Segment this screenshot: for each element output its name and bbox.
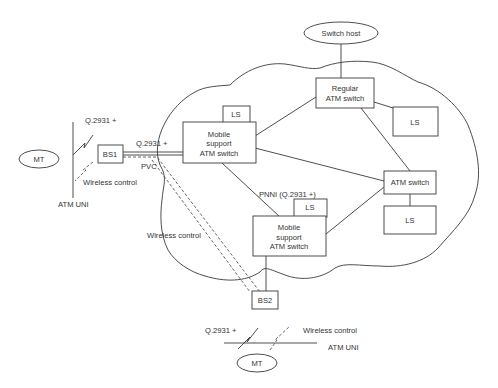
label-pnni: PNNI (Q.2931 +) [259, 190, 316, 199]
label-q2931-bottom: Q.2931 + [205, 326, 237, 335]
ls-atm-label: LS [405, 216, 414, 225]
lightning-icon-left [73, 135, 93, 155]
ls-regular-label: LS [410, 118, 419, 127]
mobile-atm-network-diagram: Switch host Regular ATM switch LS LS Mob… [0, 0, 498, 388]
pvc-dashed-line [123, 157, 260, 292]
label-wireless-control-bottom: Wireless control [303, 326, 357, 335]
label-atm-uni-bottom: ATM UNI [328, 343, 359, 352]
ls-mobile1-label: LS [231, 110, 240, 119]
bs2-label: BS2 [258, 296, 272, 305]
wireless-control-dashed-mid [152, 160, 250, 292]
wireless-control-dashed-bottom [270, 326, 290, 350]
lightning-icon-bottom [238, 328, 258, 349]
label-pvc: PVC [141, 162, 157, 171]
link-regular-ls [374, 102, 393, 108]
label-wireless-control-mid: Wireless control [147, 231, 201, 240]
link-atmswitch-mobile2 [326, 187, 384, 234]
regular-atm-switch-label-2: ATM switch [326, 94, 365, 103]
link-regular-mobile1 [255, 97, 316, 136]
atm-switch-label: ATM switch [391, 178, 430, 187]
ls-mobile2-label: LS [305, 203, 314, 212]
switch-host-label: Switch host [322, 29, 362, 38]
regular-atm-switch-label-1: Regular [332, 84, 359, 93]
link-mobile1-atmswitch [255, 148, 384, 181]
mobile-switch-1-label-2: support [206, 139, 232, 148]
bs1-label: BS1 [103, 150, 117, 159]
mobile-switch-1-label-3: ATM switch [200, 149, 239, 158]
mobile-switch-2-label-2: support [276, 233, 302, 242]
label-atm-uni-left: ATM UNI [58, 200, 89, 209]
label-wireless-control-left: Wireless control [83, 178, 137, 187]
mobile-switch-2-label-3: ATM switch [270, 242, 309, 251]
mt-left-label: MT [34, 155, 45, 164]
mobile-switch-2-label-1: Mobile [278, 223, 300, 232]
label-q2931-left: Q.2931 + [85, 116, 117, 125]
label-q2931-bs1-link: Q.2931 + [136, 139, 168, 148]
mt-bottom-label: MT [252, 359, 263, 368]
mobile-switch-1-label-1: Mobile [208, 130, 230, 139]
regular-atm-switch-node [316, 78, 374, 108]
